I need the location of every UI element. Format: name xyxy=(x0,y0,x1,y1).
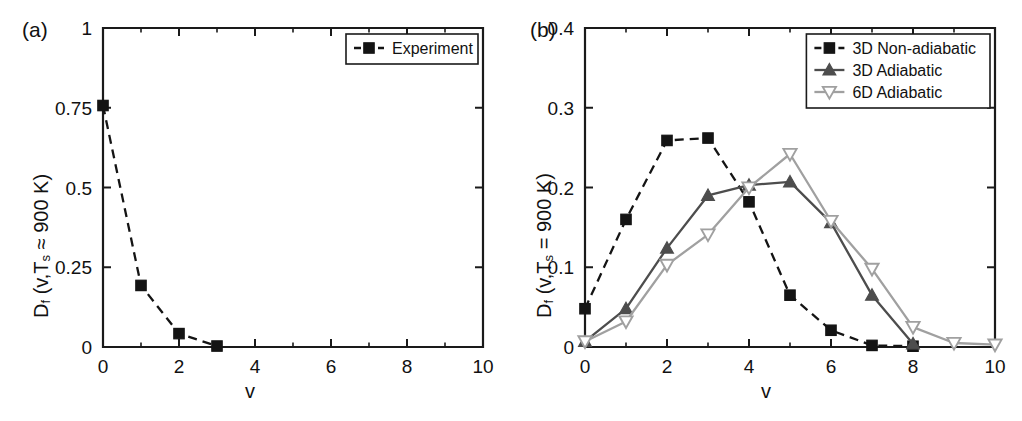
panel-a-plot: 024681000.250.50.751Experiment xyxy=(0,0,511,421)
x-tick-label: 4 xyxy=(744,356,755,377)
data-point-marker xyxy=(867,340,877,350)
figure-container: (a) Df (v,Ts ≈ 900 K) v 024681000.250.50… xyxy=(0,0,1022,421)
data-point-marker xyxy=(703,133,713,143)
x-tick-label: 0 xyxy=(98,356,109,377)
data-point-marker xyxy=(364,43,374,53)
y-tick-label: 0.2 xyxy=(548,178,574,199)
data-point-marker xyxy=(866,289,879,300)
x-tick-label: 6 xyxy=(826,356,837,377)
x-tick-label: 2 xyxy=(174,356,185,377)
y-tick-label: 0 xyxy=(81,337,92,358)
x-tick-label: 10 xyxy=(472,356,493,377)
data-point-marker xyxy=(98,100,108,110)
legend: Experiment xyxy=(346,34,478,64)
data-point-marker xyxy=(136,280,146,290)
legend-label: 3D Non-adiabatic xyxy=(852,40,976,57)
axes-group: 024681000.250.50.751 xyxy=(55,18,494,377)
y-tick-label: 1 xyxy=(81,18,92,39)
y-tick-label: 0.3 xyxy=(548,98,574,119)
data-point-marker xyxy=(212,341,222,351)
panel-b-plot: 024681000.10.20.30.43D Non-adiabatic3D A… xyxy=(511,0,1022,421)
y-tick-label: 0.5 xyxy=(66,178,92,199)
y-tick-label: 0.4 xyxy=(548,18,575,39)
y-tick-label: 0.75 xyxy=(55,98,92,119)
series-line xyxy=(585,138,913,346)
y-tick-label: 0 xyxy=(563,337,574,358)
x-tick-label: 4 xyxy=(250,356,261,377)
panel-a: (a) Df (v,Ts ≈ 900 K) v 024681000.250.50… xyxy=(0,0,511,421)
legend-label: 6D Adiabatic xyxy=(852,84,942,101)
x-tick-label: 8 xyxy=(402,356,413,377)
data-point-marker xyxy=(744,197,754,207)
x-tick-label: 0 xyxy=(580,356,591,377)
x-tick-label: 6 xyxy=(326,356,337,377)
data-point-marker xyxy=(662,135,672,145)
data-point-marker xyxy=(580,304,590,314)
y-tick-label: 0.1 xyxy=(548,257,574,278)
y-tick-label: 0.25 xyxy=(55,257,92,278)
x-tick-label: 2 xyxy=(662,356,673,377)
data-point-marker xyxy=(621,214,631,224)
legend-label: 3D Adiabatic xyxy=(852,62,942,79)
data-point-marker xyxy=(619,316,632,328)
axis-frame xyxy=(103,28,483,347)
data-point-marker xyxy=(824,43,834,53)
x-tick-label: 8 xyxy=(908,356,919,377)
data-point-marker xyxy=(826,325,836,335)
series-line xyxy=(103,106,217,347)
legend-label: Experiment xyxy=(392,40,473,57)
x-tick-label: 10 xyxy=(984,356,1005,377)
series-1 xyxy=(98,100,222,351)
data-point-marker xyxy=(785,290,795,300)
legend: 3D Non-adiabatic3D Adiabatic6D Adiabatic xyxy=(806,34,990,108)
data-point-marker xyxy=(174,328,184,338)
panel-b: (b) Df (v,Ts = 900 K) v 024681000.10.20.… xyxy=(511,0,1022,421)
